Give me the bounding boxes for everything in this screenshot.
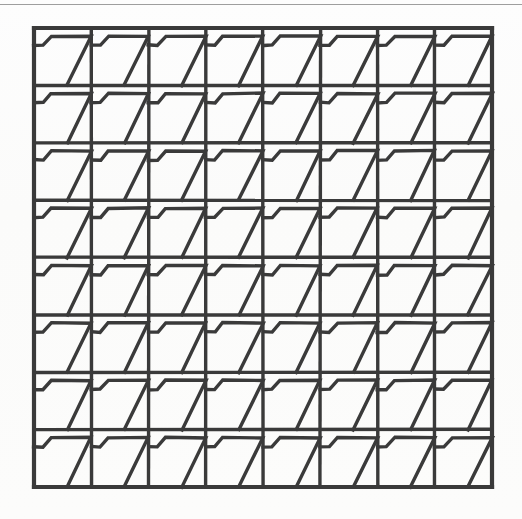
tile-motif bbox=[263, 151, 320, 201]
tile-motif bbox=[263, 265, 320, 315]
tile-motif bbox=[34, 380, 91, 429]
tile-motif bbox=[263, 323, 320, 373]
tile-motif bbox=[206, 380, 263, 430]
tile-motif bbox=[149, 323, 206, 373]
tile-motif bbox=[91, 36, 148, 85]
tile-motif bbox=[378, 208, 435, 257]
tile-motif bbox=[435, 151, 492, 200]
tile-motif bbox=[263, 208, 320, 257]
tile-motif bbox=[149, 380, 207, 430]
tiling-pattern bbox=[0, 0, 522, 519]
tile-motif bbox=[34, 437, 91, 486]
tile-motif bbox=[320, 36, 378, 85]
tile-motif bbox=[34, 323, 91, 372]
tile-motif bbox=[34, 36, 92, 85]
tile-motif bbox=[435, 36, 492, 85]
tile-motif bbox=[148, 265, 206, 314]
tile-motif bbox=[263, 36, 320, 85]
tile-motif bbox=[435, 322, 492, 372]
tile-motif bbox=[34, 208, 92, 258]
tile-motif bbox=[92, 323, 149, 373]
tile-motif bbox=[148, 36, 206, 85]
tile-motif bbox=[378, 437, 435, 487]
tile-motif bbox=[377, 323, 435, 373]
tile-motif bbox=[321, 151, 378, 200]
tile-motif bbox=[435, 208, 492, 258]
tile-motif bbox=[435, 380, 492, 430]
tile-motif bbox=[91, 266, 148, 315]
tile-motif bbox=[435, 265, 492, 315]
tile-motif bbox=[320, 380, 377, 430]
tile-motif bbox=[320, 265, 377, 315]
tile-motif bbox=[320, 323, 377, 372]
tile-motif bbox=[320, 208, 377, 257]
tile-motif bbox=[206, 323, 264, 373]
tile-motif bbox=[148, 94, 206, 143]
tile-motif bbox=[377, 380, 435, 430]
tile-motif bbox=[205, 208, 262, 257]
tile-motif bbox=[34, 94, 91, 143]
tile-motif bbox=[148, 151, 205, 200]
tile-motif bbox=[320, 93, 378, 143]
tile-motif bbox=[320, 437, 378, 486]
tile-motif bbox=[206, 93, 263, 143]
tile-motif bbox=[91, 208, 148, 258]
tile-motif bbox=[435, 93, 492, 143]
tile-motif bbox=[34, 265, 91, 315]
tile-motif bbox=[206, 36, 263, 86]
tile-motif bbox=[149, 437, 206, 487]
tile-motif bbox=[92, 437, 149, 486]
tile-motif bbox=[378, 265, 435, 315]
tile-motif bbox=[377, 36, 434, 85]
tile-motif bbox=[206, 437, 263, 486]
tile-motif bbox=[263, 380, 320, 429]
tile-motif bbox=[378, 150, 435, 200]
tile-motif bbox=[263, 93, 320, 142]
tile-motif bbox=[263, 437, 320, 486]
tile-motif bbox=[434, 438, 492, 487]
tile-motif bbox=[205, 265, 263, 314]
tile-motif bbox=[206, 150, 263, 199]
tile-motif bbox=[378, 93, 435, 143]
tile-motif bbox=[91, 93, 148, 142]
tile-motif bbox=[91, 380, 148, 429]
tile-motif bbox=[148, 208, 205, 257]
tile-motif bbox=[92, 151, 149, 200]
figure-root bbox=[0, 0, 522, 519]
tile-motif bbox=[34, 151, 92, 201]
